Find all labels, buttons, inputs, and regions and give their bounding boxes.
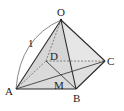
label-a: A — [5, 85, 13, 97]
label-d: D — [50, 50, 58, 62]
label-edge-length: 1 — [28, 37, 34, 49]
label-c: C — [107, 55, 114, 67]
vertex-o-dot — [60, 19, 62, 21]
label-b: B — [73, 92, 80, 104]
label-o: O — [57, 6, 65, 18]
pyramid-diagram: O A B C D M 1 — [0, 0, 124, 111]
label-m: M — [54, 79, 64, 91]
